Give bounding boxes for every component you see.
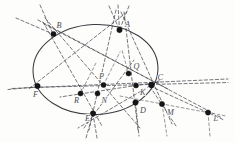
point-C[interactable] xyxy=(149,82,155,88)
point-L[interactable] xyxy=(205,110,210,115)
point-D[interactable] xyxy=(133,100,138,105)
label-Q: Q xyxy=(134,62,140,71)
line-A-to-F xyxy=(28,12,127,90)
geometry-figure: BACDEFPQKRNML xyxy=(0,0,235,142)
line-E-to-Q xyxy=(84,60,134,128)
geometry-canvas: BACDEFPQKRNML xyxy=(0,0,235,142)
label-R: R xyxy=(73,96,79,105)
line-P-diag xyxy=(104,52,121,85)
label-M: M xyxy=(166,108,175,117)
label-C: C xyxy=(158,73,164,82)
points-group xyxy=(35,27,211,116)
label-L: L xyxy=(213,114,219,123)
point-N[interactable] xyxy=(95,91,100,96)
dashed-lines-group xyxy=(8,5,228,138)
point-E[interactable] xyxy=(90,111,95,116)
point-Q[interactable] xyxy=(126,71,131,76)
conic-ellipse xyxy=(31,22,160,117)
point-P[interactable] xyxy=(101,83,106,88)
label-D: D xyxy=(139,106,146,115)
line-R-up xyxy=(81,63,97,94)
label-B: B xyxy=(57,21,62,30)
label-A: A xyxy=(124,20,131,29)
line-D-down xyxy=(136,103,140,137)
label-P: P xyxy=(98,72,104,81)
point-B[interactable] xyxy=(51,31,56,36)
point-A[interactable] xyxy=(117,27,122,32)
point-F[interactable] xyxy=(35,83,40,88)
point-K[interactable] xyxy=(134,83,139,88)
line-L-down xyxy=(208,113,210,137)
label-N: N xyxy=(101,96,108,105)
label-E: E xyxy=(84,114,90,123)
line-Q-up xyxy=(122,50,129,74)
label-F: F xyxy=(32,90,39,99)
conic-ellipse-group xyxy=(31,22,160,117)
label-K: K xyxy=(139,88,146,97)
line-C-to-E xyxy=(78,80,160,128)
point-M[interactable] xyxy=(159,101,164,106)
